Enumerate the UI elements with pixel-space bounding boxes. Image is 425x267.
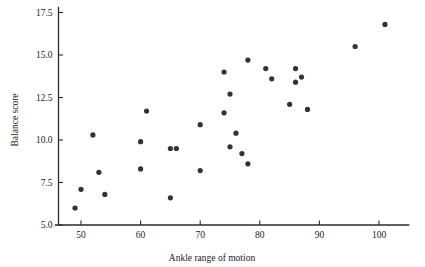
data-point-marker <box>174 146 179 151</box>
x-tick-label: 60 <box>136 230 146 240</box>
scatter-plot-figure: 5.07.510.012.515.017.55060708090100 Ankl… <box>0 0 425 267</box>
data-point-marker <box>90 132 95 137</box>
x-tick-label: 80 <box>255 230 265 240</box>
data-point-marker <box>138 166 143 171</box>
y-tick-label: 15.0 <box>36 50 53 60</box>
data-point-marker <box>245 58 250 63</box>
data-point-marker <box>72 205 77 210</box>
data-point-marker <box>245 161 250 166</box>
data-point-marker <box>382 22 387 27</box>
axes <box>56 7 409 225</box>
data-point-marker <box>299 75 304 80</box>
x-tick-label: 50 <box>76 230 86 240</box>
plot-canvas: 5.07.510.012.515.017.55060708090100 Ankl… <box>0 0 425 267</box>
data-point-marker <box>138 139 143 144</box>
tick-labels: 5.07.510.012.515.017.55060708090100 <box>36 8 387 240</box>
data-point-marker <box>293 80 298 85</box>
x-tick-label: 70 <box>195 230 205 240</box>
y-tick-label: 5.0 <box>41 220 53 230</box>
x-axis-title: Ankle range of motion <box>169 253 256 263</box>
y-axis-title: Balance score <box>10 93 20 146</box>
data-point-marker <box>168 146 173 151</box>
x-tick-label: 100 <box>372 230 387 240</box>
data-point-marker <box>263 66 268 71</box>
data-point-marker <box>221 110 226 115</box>
data-point-marker <box>269 76 274 81</box>
data-point-marker <box>239 151 244 156</box>
data-point-marker <box>353 44 358 49</box>
data-point-marker <box>78 187 83 192</box>
y-tick-label: 7.5 <box>41 178 53 188</box>
data-point-marker <box>227 92 232 97</box>
data-point-marker <box>221 69 226 74</box>
data-point-marker <box>233 131 238 136</box>
y-tick-label: 12.5 <box>36 93 53 103</box>
data-point-marker <box>287 102 292 107</box>
data-point-marker <box>102 192 107 197</box>
data-point-marker <box>305 107 310 112</box>
x-tick-label: 90 <box>315 230 325 240</box>
data-point-marker <box>227 144 232 149</box>
data-points <box>72 22 387 211</box>
data-point-marker <box>293 66 298 71</box>
y-tick-label: 17.5 <box>36 8 53 18</box>
data-point-marker <box>144 109 149 114</box>
data-point-marker <box>198 168 203 173</box>
data-point-marker <box>198 122 203 127</box>
data-point-marker <box>168 195 173 200</box>
data-point-marker <box>96 170 101 175</box>
y-tick-label: 10.0 <box>36 135 53 145</box>
